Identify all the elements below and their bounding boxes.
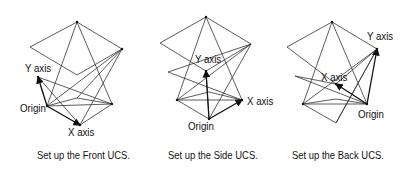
front-x-axis-label: X axis — [68, 126, 94, 138]
side-ucs-caption: Set up the Side UCS. — [168, 149, 258, 161]
front-y-axis-label: Y axis — [25, 62, 51, 74]
back-x-axis-label: X axis — [321, 71, 347, 83]
back-ucs-caption: Set up the Back UCS. — [292, 149, 384, 161]
side-x-axis-label: X axis — [247, 95, 273, 107]
side-origin-label: Origin — [188, 120, 214, 132]
front-origin-label: Origin — [20, 102, 46, 114]
side-y-axis-label: Y axis — [195, 53, 221, 65]
back-y-axis-label: Y axis — [367, 30, 393, 42]
front-ucs-caption: Set up the Front UCS. — [37, 149, 130, 161]
side-ucs-wireframe — [160, 16, 251, 120]
back-origin-label: Origin — [358, 108, 384, 120]
